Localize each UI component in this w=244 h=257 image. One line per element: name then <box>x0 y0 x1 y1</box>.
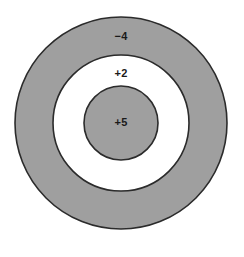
concentric-target-figure: −4 +2 +5 <box>0 0 244 257</box>
target-svg-canvas: −4 +2 +5 <box>0 0 244 257</box>
inner-circle-label: +5 <box>115 116 128 128</box>
outer-ring-label: −4 <box>115 30 129 42</box>
middle-ring-label: +2 <box>115 67 128 79</box>
